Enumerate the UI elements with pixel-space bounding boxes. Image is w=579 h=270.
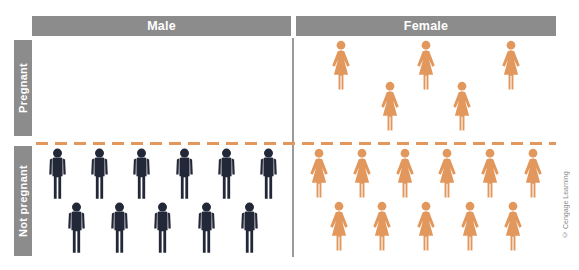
female-icon bbox=[435, 148, 459, 201]
cell-not-pregnant-female bbox=[298, 148, 554, 256]
cell-not-pregnant-male bbox=[36, 148, 290, 256]
male-icon bbox=[172, 148, 197, 202]
male-icon bbox=[129, 148, 154, 202]
female-icon bbox=[414, 201, 438, 254]
female-icon bbox=[501, 201, 525, 254]
row-label-pregnant: Pregnant bbox=[14, 40, 32, 136]
cell-pregnant-male bbox=[36, 40, 290, 140]
female-icon bbox=[478, 148, 502, 201]
male-icon bbox=[64, 202, 89, 256]
male-icon bbox=[107, 202, 132, 256]
female-icon bbox=[370, 201, 394, 254]
male-icon bbox=[214, 148, 239, 202]
male-icon bbox=[194, 202, 219, 256]
female-icon bbox=[521, 148, 545, 201]
male-icon bbox=[237, 202, 262, 256]
female-icon bbox=[393, 148, 417, 201]
female-icon bbox=[307, 148, 331, 201]
column-header-female: Female bbox=[296, 16, 556, 36]
male-icon bbox=[87, 148, 112, 202]
row-divider-dashed-line bbox=[36, 142, 556, 145]
pregnancy-by-sex-figure: Male Female Pregnant Not pregnant © Ceng… bbox=[0, 0, 579, 270]
column-divider-line bbox=[292, 38, 294, 257]
male-icon bbox=[45, 148, 70, 202]
female-icon bbox=[450, 81, 474, 134]
male-icon bbox=[256, 148, 281, 202]
female-icon bbox=[350, 148, 374, 201]
female-icon bbox=[327, 201, 351, 254]
row-label-not-pregnant: Not pregnant bbox=[14, 146, 32, 256]
copyright-credit: © Cengage Learning bbox=[558, 150, 572, 260]
column-header-male: Male bbox=[32, 16, 291, 36]
cell-pregnant-female bbox=[298, 40, 554, 140]
female-icon bbox=[378, 81, 402, 134]
female-icon bbox=[458, 201, 482, 254]
male-icon bbox=[150, 202, 175, 256]
